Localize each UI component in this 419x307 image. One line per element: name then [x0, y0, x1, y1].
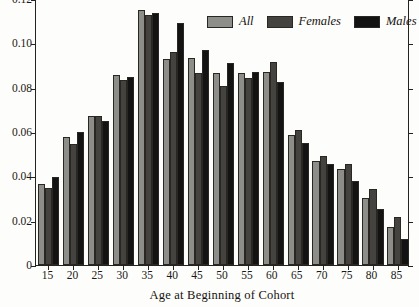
bar-all-15 [38, 184, 45, 265]
bar-group [63, 0, 84, 265]
bar-group [312, 0, 333, 265]
bar-all-65 [288, 135, 295, 265]
y-tick-right [408, 89, 413, 90]
bar-group [163, 0, 184, 265]
bar-all-75 [337, 169, 344, 265]
y-tick-right [408, 177, 413, 178]
bar-group [38, 0, 59, 265]
males-swatch-icon [354, 16, 380, 28]
bar-chart-figure: 00.020.040.060.080.100.12 15202530354045… [0, 0, 419, 307]
bar-all-80 [362, 198, 369, 265]
bar-all-85 [387, 227, 394, 265]
legend-label-males: Males [386, 14, 417, 29]
bar-males-15 [52, 177, 59, 265]
bar-females-70 [320, 156, 327, 265]
bar-group [88, 0, 109, 265]
bar-group [288, 0, 309, 265]
x-tick-label: 85 [382, 268, 412, 283]
bar-group [138, 0, 159, 265]
legend-item-males: Males [354, 14, 417, 29]
y-tick-left [31, 266, 36, 267]
bar-males-30 [127, 77, 134, 265]
x-axis-title: Age at Beginning of Cohort [35, 288, 409, 303]
y-tick-right [408, 222, 413, 223]
chart-legend: All Females Males [207, 14, 417, 29]
bar-series-container [36, 0, 408, 265]
y-tick-label: 0.10 [0, 38, 32, 50]
bar-males-80 [377, 209, 384, 265]
bar-males-40 [177, 23, 184, 265]
y-tick-right [408, 133, 413, 134]
bar-group [188, 0, 209, 265]
legend-label-all: All [239, 14, 254, 29]
bar-females-80 [369, 189, 376, 265]
bar-all-60 [263, 72, 270, 265]
bar-group [362, 0, 383, 265]
bar-all-70 [312, 161, 319, 265]
legend-item-all: All [207, 14, 254, 29]
bar-all-20 [63, 137, 70, 265]
x-axis-tick-labels: 152025303540455055606570758085 [35, 268, 409, 286]
bar-all-55 [238, 73, 245, 265]
legend-label-females: Females [299, 14, 341, 29]
bar-group [263, 0, 284, 265]
bar-males-60 [277, 82, 284, 265]
bar-females-75 [345, 164, 352, 265]
bar-females-25 [95, 116, 102, 265]
bar-males-20 [77, 132, 84, 265]
y-tick-label: 0.12 [0, 0, 32, 6]
bar-all-30 [113, 75, 120, 265]
bar-all-45 [188, 58, 195, 265]
legend-item-females: Females [267, 14, 341, 29]
bar-all-40 [163, 59, 170, 265]
y-tick-right [408, 44, 413, 45]
bar-all-35 [138, 10, 145, 265]
plot-area [35, 0, 409, 266]
y-tick-label: 0 [0, 260, 32, 272]
bar-females-55 [245, 78, 252, 265]
bar-females-65 [295, 130, 302, 265]
bar-group [213, 0, 234, 265]
bar-males-50 [227, 63, 234, 265]
bar-males-65 [302, 143, 309, 265]
bar-males-55 [252, 72, 259, 265]
bar-group [387, 0, 408, 265]
bar-females-50 [220, 86, 227, 265]
y-tick-label: 0.04 [0, 171, 32, 183]
bar-males-35 [152, 13, 159, 265]
y-tick-right [408, 266, 413, 267]
bar-females-60 [270, 62, 277, 265]
y-tick-label: 0.06 [0, 127, 32, 139]
bar-group [337, 0, 358, 265]
bar-all-25 [88, 116, 95, 265]
y-tick-right [408, 0, 413, 1]
all-swatch-icon [207, 16, 233, 28]
bar-group [113, 0, 134, 265]
bar-females-15 [45, 188, 52, 265]
bar-females-35 [145, 15, 152, 265]
y-tick-label: 0.02 [0, 216, 32, 228]
bar-males-70 [327, 164, 334, 265]
bar-all-50 [213, 73, 220, 265]
bar-males-85 [401, 239, 408, 265]
bar-group [238, 0, 259, 265]
bar-males-45 [202, 50, 209, 265]
bar-females-20 [70, 144, 77, 265]
bar-males-75 [352, 181, 359, 265]
bar-females-30 [120, 80, 127, 265]
bar-females-85 [394, 217, 401, 265]
females-swatch-icon [267, 16, 293, 28]
y-tick-label: 0.08 [0, 83, 32, 95]
bar-females-45 [195, 73, 202, 265]
bar-females-40 [170, 52, 177, 265]
bar-males-25 [102, 121, 109, 265]
